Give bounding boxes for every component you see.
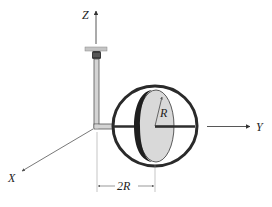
support-rod <box>94 59 113 129</box>
y-axis: Y <box>207 120 264 134</box>
ceiling-mount <box>85 47 107 59</box>
radius-label: R <box>159 106 168 120</box>
y-axis-label: Y <box>256 120 264 134</box>
x-axis: X <box>7 129 93 185</box>
gyroscope-diagram: Z X R Y <box>0 0 272 207</box>
dimension-label: 2R <box>117 179 131 193</box>
disk <box>134 90 174 162</box>
z-axis-label: Z <box>82 8 89 22</box>
z-axis: Z <box>82 8 96 44</box>
x-axis-label: X <box>7 171 16 185</box>
